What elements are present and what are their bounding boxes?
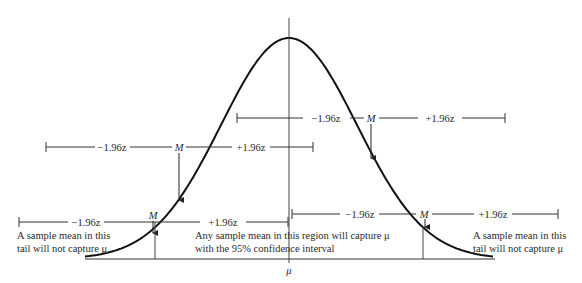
plus-196z-label: +1.96z — [209, 217, 238, 228]
right-tail-note-line1: A sample mean in this — [473, 230, 566, 241]
interval-upper-right: −1.96z M +1.96z — [237, 113, 505, 158]
sample-mean-label: M — [366, 113, 377, 124]
left-tail-note-line2: tail will not capture μ — [17, 243, 108, 254]
minus-196z-label: −1.96z — [312, 113, 341, 124]
sample-mean-label: M — [148, 210, 159, 221]
sample-mean-label: M — [419, 209, 430, 220]
minus-196z-label: −1.96z — [98, 142, 127, 153]
minus-196z-label: −1.96z — [346, 209, 375, 220]
plus-196z-label: +1.96z — [479, 209, 508, 220]
left-tail-note-line1: A sample mean in this — [17, 230, 110, 241]
center-note-line1: Any sample mean in this region will capt… — [195, 230, 390, 241]
mu-axis-label: μ — [285, 265, 291, 276]
right-tail-note-line2: tail will not capture μ — [473, 243, 564, 254]
interval-middle-left: −1.96z M +1.96z — [46, 142, 313, 200]
plus-196z-label: +1.96z — [237, 142, 266, 153]
minus-196z-label: −1.96z — [72, 217, 101, 228]
plus-196z-label: +1.96z — [426, 113, 455, 124]
confidence-interval-diagram: μ −1.96z M +1.96z −1.96z M +1.96z −1.96z… — [0, 0, 582, 283]
sample-mean-label: M — [174, 142, 185, 153]
center-note-line2: with the 95% confidence interval — [195, 243, 334, 254]
